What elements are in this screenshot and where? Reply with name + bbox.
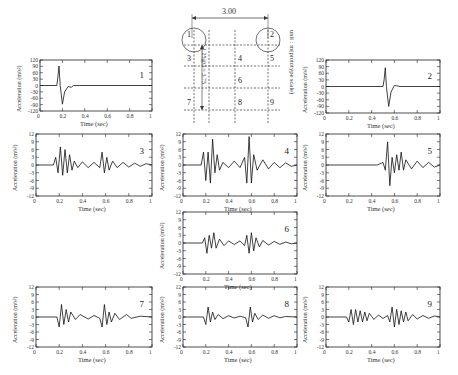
- y-axis-label: Acceleration (m/s²): [302, 296, 308, 343]
- x-axis-label: Time (sec): [367, 205, 395, 212]
- sensor-layout-diagram: 3.00 1.25@3 = 3.75 1 2 3 4 5 6 7 8 9 uni…: [180, 8, 290, 128]
- y-tick-label: 0: [321, 84, 324, 90]
- y-tick-label: 9: [178, 217, 181, 223]
- plot-svg: [326, 60, 440, 113]
- x-tick-label: 0.8: [414, 115, 421, 121]
- y-tick-label: 12: [176, 284, 182, 290]
- x-tick-label: 0.8: [127, 113, 134, 119]
- y-tick-label: 6: [178, 225, 181, 231]
- y-tick-label: -120: [314, 110, 324, 116]
- y-tick-label: 9: [178, 139, 181, 145]
- x-tick-label: 0.4: [82, 113, 89, 119]
- acceleration-trace: [40, 66, 152, 104]
- acceleration-trace: [36, 305, 152, 328]
- plot-panel-2: 00.20.40.60.811209060300-30-60-90-120Tim…: [326, 60, 440, 113]
- node-2-label: 2: [270, 30, 274, 39]
- x-tick-label: 0.6: [248, 349, 255, 355]
- plot-svg: [326, 134, 440, 196]
- y-tick-label: -3: [319, 170, 324, 176]
- y-axis-label: Acceleration (m/s²): [12, 296, 18, 343]
- unit-label: unit : m(prototype scale): [289, 30, 296, 94]
- figure-caption: [130, 364, 330, 370]
- y-tick-label: 3: [178, 232, 181, 238]
- plot-svg: [36, 134, 152, 196]
- y-axis-label: Acceleration (m/s²): [16, 65, 22, 112]
- panel-number-label: 6: [285, 224, 290, 234]
- plot-svg: [183, 212, 297, 274]
- x-tick-label: 0.6: [391, 349, 398, 355]
- x-tick-label: 1: [294, 276, 297, 282]
- y-tick-label: 120: [316, 57, 324, 63]
- y-tick-label: 12: [319, 284, 325, 290]
- acceleration-trace: [36, 147, 152, 175]
- x-tick-label: 0.2: [346, 115, 353, 121]
- x-tick-label: 0.8: [271, 276, 278, 282]
- y-tick-label: 3: [178, 307, 181, 313]
- plot-panel-8: 00.20.40.60.81129630-3-6-9-12Time (sec)A…: [183, 287, 297, 347]
- y-tick-label: 6: [31, 147, 34, 153]
- y-tick-label: -120: [28, 108, 38, 114]
- y-tick-label: -9: [29, 337, 34, 343]
- y-tick-label: -3: [176, 170, 181, 176]
- x-axis-label: Time (sec): [78, 205, 106, 212]
- x-tick-label: 0.6: [391, 115, 398, 121]
- x-tick-label: 0.2: [346, 349, 353, 355]
- y-tick-label: 12: [29, 131, 35, 137]
- y-tick-label: 60: [33, 70, 39, 76]
- node-8-label: 8: [238, 98, 242, 107]
- x-axis-label: Time (sec): [367, 356, 395, 363]
- x-tick-label: 1: [149, 113, 152, 119]
- x-tick-label: 0.6: [103, 349, 110, 355]
- acceleration-trace: [183, 233, 297, 254]
- panel-number-label: 4: [285, 146, 290, 156]
- y-tick-label: -6: [29, 329, 34, 335]
- y-tick-label: 30: [33, 76, 39, 82]
- y-tick-label: 90: [319, 64, 325, 70]
- panel-number-label: 9: [428, 299, 433, 309]
- y-tick-label: -3: [29, 170, 34, 176]
- y-tick-label: -9: [176, 185, 181, 191]
- y-tick-label: -30: [31, 89, 38, 95]
- panel-number-label: 5: [428, 146, 433, 156]
- x-tick-label: 0.2: [203, 349, 210, 355]
- y-tick-label: -12: [27, 344, 34, 350]
- y-axis-label: Acceleration (m/s²): [302, 144, 308, 191]
- y-axis-label: Acceleration (m/s²): [159, 222, 165, 269]
- y-tick-label: -9: [29, 185, 34, 191]
- x-tick-label: 0.4: [226, 198, 233, 204]
- y-tick-label: 60: [319, 70, 325, 76]
- x-tick-label: 1: [294, 198, 297, 204]
- node-7-label: 7: [187, 98, 191, 107]
- y-tick-label: 0: [321, 314, 324, 320]
- plot-panel-5: 00.20.40.60.81129630-3-6-9-12Time (sec)A…: [326, 134, 440, 196]
- y-axis-label: Acceleration (m/s²): [12, 144, 18, 191]
- y-tick-label: -30: [317, 90, 324, 96]
- panel-number-label: 3: [140, 146, 145, 156]
- y-tick-label: 12: [176, 209, 182, 215]
- y-tick-label: 0: [31, 314, 34, 320]
- x-tick-label: 0.4: [79, 198, 86, 204]
- x-axis-label: Time (sec): [224, 205, 252, 212]
- x-tick-label: 0.4: [226, 349, 233, 355]
- x-tick-label: 0.2: [346, 198, 353, 204]
- x-tick-label: 0.8: [271, 349, 278, 355]
- y-tick-label: -6: [319, 329, 324, 335]
- y-tick-label: 6: [178, 147, 181, 153]
- x-tick-label: 0.4: [369, 115, 376, 121]
- y-tick-label: -12: [174, 193, 181, 199]
- y-tick-label: 3: [31, 154, 34, 160]
- x-tick-label: 0.2: [203, 198, 210, 204]
- x-tick-label: 0.8: [126, 198, 133, 204]
- x-tick-label: 0.6: [248, 276, 255, 282]
- y-tick-label: 12: [29, 284, 35, 290]
- y-tick-label: -9: [319, 337, 324, 343]
- layout-grid-svg: [180, 8, 290, 128]
- y-tick-label: -90: [31, 102, 38, 108]
- plot-panel-1: 00.20.40.60.811209060300-30-60-90-120Tim…: [40, 60, 152, 111]
- y-tick-label: 90: [33, 63, 39, 69]
- panel-number-label: 7: [140, 299, 145, 309]
- x-tick-label: 0.8: [271, 198, 278, 204]
- x-axis-label: Time (sec): [80, 120, 108, 127]
- acceleration-trace: [183, 307, 297, 327]
- y-tick-label: -6: [29, 178, 34, 184]
